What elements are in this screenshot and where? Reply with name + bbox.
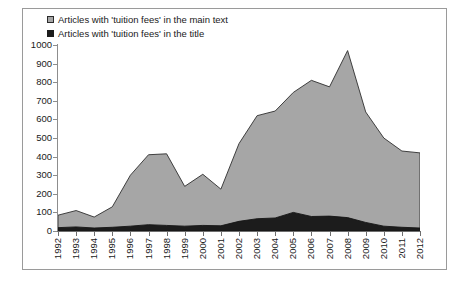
plot-area — [58, 45, 420, 231]
y-axis-label: 600 — [16, 114, 52, 123]
y-axis-tick — [53, 45, 57, 46]
y-axis-label: 200 — [16, 189, 52, 198]
x-axis-label-1996: 1996 — [125, 238, 134, 259]
x-axis-tick — [112, 232, 113, 236]
x-axis-label-2003: 2003 — [252, 238, 261, 259]
y-axis-tick — [53, 157, 57, 158]
y-axis-tick — [53, 82, 57, 83]
y-axis-label: 0 — [16, 226, 52, 235]
bottom-divider — [23, 269, 446, 270]
legend-swatch-main-text-icon — [47, 16, 54, 23]
stacked-area-plot — [58, 45, 420, 231]
area-series-main-text — [58, 51, 420, 231]
x-axis-tick — [257, 232, 258, 236]
x-axis-tick — [420, 232, 421, 236]
x-axis-label-2007: 2007 — [325, 238, 334, 259]
x-axis-label-2000: 2000 — [198, 238, 207, 259]
x-axis-tick — [167, 232, 168, 236]
x-axis-label-2012: 2012 — [415, 238, 424, 259]
chart-screenshot: Articles with 'tuition fees' in the main… — [0, 0, 462, 285]
y-axis-tick — [53, 175, 57, 176]
x-axis-label-1993: 1993 — [71, 238, 80, 259]
legend-label-title: Articles with 'tuition fees' in the titl… — [58, 28, 204, 39]
x-axis-tick — [149, 232, 150, 236]
x-axis-label-2005: 2005 — [288, 238, 297, 259]
y-axis-label-text: 200 — [20, 189, 52, 198]
y-axis-tick — [53, 231, 57, 232]
y-axis-label: 800 — [16, 77, 52, 86]
legend-item-title: Articles with 'tuition fees' in the titl… — [47, 27, 347, 40]
x-axis-tick — [76, 232, 77, 236]
x-axis-tick — [275, 232, 276, 236]
y-axis-label: 300 — [16, 170, 52, 179]
legend-swatch-title-icon — [47, 30, 54, 37]
x-axis-tick — [384, 232, 385, 236]
y-axis-label-text: 600 — [20, 114, 52, 123]
y-axis-label-text: 800 — [20, 77, 52, 86]
x-axis-tick — [58, 232, 59, 236]
x-axis-label-1999: 1999 — [180, 238, 189, 259]
x-axis-label-1998: 1998 — [162, 238, 171, 259]
x-axis-tick — [203, 232, 204, 236]
y-axis-tick — [53, 119, 57, 120]
y-axis-label: 400 — [16, 152, 52, 161]
x-axis-label-2008: 2008 — [343, 238, 352, 259]
x-axis-tick — [130, 232, 131, 236]
x-axis-tick — [221, 232, 222, 236]
y-axis-label-text: 400 — [20, 152, 52, 161]
y-axis-tick — [53, 212, 57, 213]
x-axis-tick — [330, 232, 331, 236]
y-axis-label-text: 1000 — [20, 40, 52, 49]
x-axis-label-2002: 2002 — [234, 238, 243, 259]
y-axis-label: 100 — [16, 207, 52, 216]
x-axis-label-1994: 1994 — [89, 238, 98, 259]
legend-label-main-text: Articles with 'tuition fees' in the main… — [58, 14, 228, 25]
x-axis-tick — [348, 232, 349, 236]
legend-item-main-text: Articles with 'tuition fees' in the main… — [47, 13, 347, 26]
y-axis-tick — [53, 64, 57, 65]
y-axis-label-text: 500 — [20, 133, 52, 142]
x-axis-label-1995: 1995 — [107, 238, 116, 259]
x-axis-label-2011: 2011 — [397, 238, 406, 258]
x-axis-tick — [311, 232, 312, 236]
x-axis-label-1992: 1992 — [53, 238, 62, 259]
y-axis-label-text: 900 — [20, 59, 52, 68]
x-axis-tick — [185, 232, 186, 236]
y-axis-label: 500 — [16, 133, 52, 142]
y-axis-label: 900 — [16, 59, 52, 68]
x-axis-tick — [366, 232, 367, 236]
y-axis-label-text: 300 — [20, 170, 52, 179]
y-axis-label: 1000 — [16, 40, 52, 49]
x-axis-tick — [94, 232, 95, 236]
y-axis-tick — [53, 101, 57, 102]
x-axis-label-2006: 2006 — [306, 238, 315, 259]
y-axis-label-text: 0 — [20, 226, 52, 235]
x-axis-label-2010: 2010 — [379, 238, 388, 259]
x-axis-label-2009: 2009 — [361, 238, 370, 259]
y-axis-label-text: 700 — [20, 96, 52, 105]
chart-legend: Articles with 'tuition fees' in the main… — [47, 13, 347, 41]
y-axis-tick — [53, 138, 57, 139]
x-axis-label-1997: 1997 — [144, 238, 153, 259]
y-axis-label: 700 — [16, 96, 52, 105]
x-axis-label-2004: 2004 — [270, 238, 279, 259]
y-axis-label-text: 100 — [20, 207, 52, 216]
x-axis-label-2001: 2001 — [216, 238, 225, 259]
x-axis-tick — [402, 232, 403, 236]
y-axis-tick — [53, 194, 57, 195]
x-axis-tick — [293, 232, 294, 236]
x-axis-tick — [239, 232, 240, 236]
